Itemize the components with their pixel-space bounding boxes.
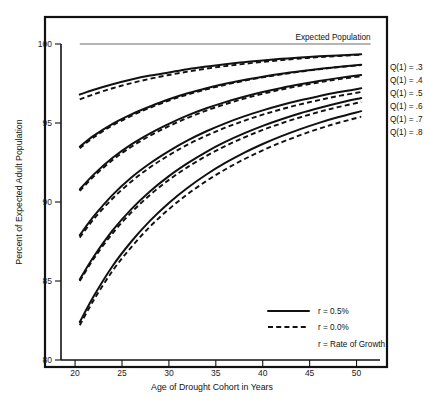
series-label-4: Q(1) = .4 (390, 76, 423, 85)
x-tick-label: 45 (305, 368, 315, 378)
y-axis-title: Percent of Expected Adult Population (14, 119, 24, 264)
x-tick-label: 35 (211, 368, 221, 378)
series-label-8: Q(1) = .8 (390, 128, 423, 137)
expected-population-label: Expected Population (296, 33, 372, 42)
legend-label-solid: r = 0.5% (318, 307, 349, 316)
series-label-7: Q(1) = .7 (390, 115, 423, 124)
series-label-6: Q(1) = .6 (390, 102, 423, 111)
y-tick-label: 100 (38, 39, 52, 49)
y-tick-label: 80 (43, 355, 53, 365)
chart-figure: 80859095100 20253035404550 Expected Popu… (0, 0, 424, 408)
x-tick-label: 25 (117, 368, 127, 378)
legend-note: r = Rate of Growth (318, 340, 386, 349)
y-tick-label: 95 (43, 118, 53, 128)
series-label-3: Q(1) = .3 (390, 63, 423, 72)
x-tick-label: 50 (352, 368, 362, 378)
y-tick-label: 85 (43, 276, 53, 286)
x-tick-label: 40 (258, 368, 268, 378)
x-axis-title: Age of Drought Cohort in Years (151, 382, 273, 392)
x-tick-label: 30 (164, 368, 174, 378)
chart-canvas: 80859095100 20253035404550 Expected Popu… (0, 0, 424, 408)
x-tick-label: 20 (70, 368, 80, 378)
series-label-5: Q(1) = .5 (390, 89, 423, 98)
legend-label-dashed: r = 0.0% (318, 323, 349, 332)
y-tick-label: 90 (43, 197, 53, 207)
